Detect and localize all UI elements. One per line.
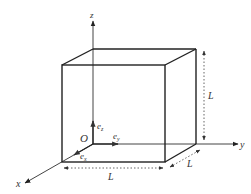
cube-diagram: z y x O ez ey ex L L L: [0, 0, 251, 194]
width-dimension-label: L: [107, 171, 114, 182]
height-dimension-label: L: [207, 90, 214, 101]
z-axis-label: z: [89, 10, 94, 20]
diagram-canvas: z y x O ez ey ex L L L: [0, 0, 251, 194]
ex-label: ex: [80, 151, 87, 162]
depth-dimension-label: L: [186, 158, 193, 169]
ey-label: ey: [113, 131, 120, 142]
ez-label: ez: [97, 121, 104, 132]
y-axis-label: y: [239, 139, 245, 150]
dimension-depth: [170, 150, 200, 167]
x-axis-label: x: [15, 178, 21, 189]
cube: [62, 49, 196, 162]
origin-label: O: [80, 132, 88, 144]
